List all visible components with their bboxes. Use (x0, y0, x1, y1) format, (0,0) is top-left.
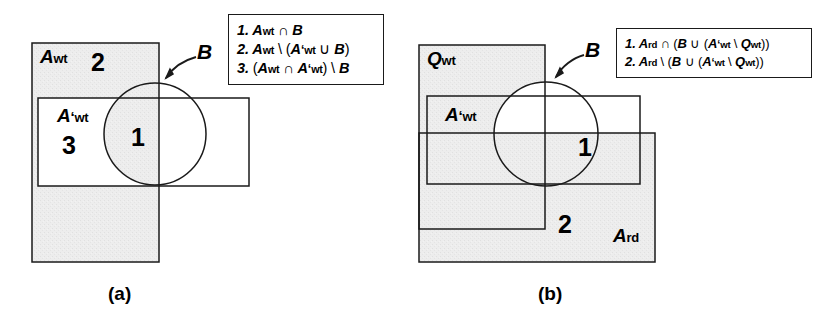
legend-token-op: ∩ (279, 60, 297, 76)
legend-token-sub: wt (311, 63, 322, 75)
label-a-rd-sub: rd (627, 230, 639, 245)
legend-token-var: Q (741, 36, 751, 51)
legend-token-var: B (334, 41, 344, 57)
label-circle-b-b: B (585, 39, 600, 60)
figure-container: Awt 2 A‘wt 3 1 B (a) 1. Awt ∩ B 2. Awt \… (0, 0, 831, 322)
legend-token-op: \ ( (657, 54, 672, 69)
legend-token-var: A (702, 54, 711, 69)
legend-token-var: A (708, 36, 717, 51)
region-label-a-3: 3 (62, 133, 76, 158)
legend-item-index: 2. (625, 54, 639, 69)
legend-item-index: 1. (625, 36, 639, 51)
legend-box-panel-a: 1. Awt ∩ B 2. Awt \ (A‘wt ∪ B) 3. (Awt ∩… (228, 14, 384, 85)
legend-token-op: \ (730, 36, 741, 51)
label-a-prime-wt-sub: wt (75, 110, 89, 125)
label-a-wt-sub: wt (54, 51, 68, 66)
legend-item-index: 1. (237, 22, 252, 38)
legend-token-sub: wt (745, 57, 755, 68)
label-a-wt: Awt (40, 47, 67, 66)
legend-token-var: B (672, 54, 681, 69)
legend-token-op: ∪ ( (687, 36, 708, 51)
region-label-b-2: 2 (558, 212, 572, 237)
legend-token-var: A (639, 36, 648, 51)
legend-item-index: 3. (237, 60, 253, 76)
label-q-wt-sub: wt (442, 53, 456, 68)
legend-token-sub: wt (720, 39, 730, 50)
legend-token-sub: wt (263, 25, 274, 37)
caption-panel-a: (a) (108, 284, 131, 303)
legend-token-sub: rd (648, 39, 657, 50)
legend-line-a-3: 3. (Awt ∩ A‘wt) \ B (237, 59, 374, 78)
label-b-a-prime-wt: A‘wt (445, 105, 476, 124)
legend-box-panel-b: 1. Ard ∩ (B ∪ (A‘wt \ Qwt)) 2. Ard \ (B … (616, 28, 812, 78)
legend-line-a-2: 2. Awt \ (A‘wt ∪ B) (237, 40, 374, 59)
legend-line-b-1: 1. Ard ∩ (B ∪ (A‘wt \ Qwt)) (625, 35, 802, 53)
legend-token-var: A (252, 41, 262, 57)
label-a-prime-wt: A‘wt (57, 106, 88, 125)
legend-token-sub: wt (263, 44, 274, 56)
legend-item-index: 2. (237, 41, 252, 57)
region-label-a-2: 2 (91, 50, 105, 75)
region-label-a-1: 1 (131, 125, 145, 150)
legend-token-var: A (252, 22, 262, 38)
legend-token-var: B (292, 22, 302, 38)
label-b-a-prime-wt-base: A (445, 104, 459, 125)
legend-token-op: )) (755, 54, 763, 69)
legend-token-var: B (339, 60, 349, 76)
legend-token-op: \ (725, 54, 736, 69)
legend-token-op: )) (761, 36, 769, 51)
legend-line-b-2: 2. Ard \ (B ∪ (A‘wt \ Qwt)) (625, 53, 802, 71)
legend-token-sub: wt (751, 39, 761, 50)
legend-token-op: ∩ (274, 22, 292, 38)
legend-token-var: A (639, 54, 648, 69)
legend-token-sub: wt (268, 63, 279, 75)
legend-token-op: ) \ (322, 60, 339, 76)
legend-token-var: A (291, 41, 301, 57)
caption-panel-b: (b) (538, 284, 562, 303)
legend-token-var: Q (735, 54, 745, 69)
label-a-rd-base: A (613, 225, 627, 246)
legend-token-op: ∪ (316, 41, 335, 57)
label-b-a-prime-wt-sub: wt (463, 109, 477, 124)
region-label-b-1: 1 (578, 135, 592, 160)
legend-token-op: ∪ ( (681, 54, 702, 69)
label-q-wt-base: Q (427, 48, 442, 69)
legend-token-sub: rd (648, 57, 657, 68)
legend-token-op: \ ( (274, 41, 291, 57)
label-a-prime-wt-base: A (57, 105, 71, 126)
legend-token-sub: wt (304, 44, 315, 56)
label-q-wt: Qwt (427, 49, 455, 68)
legend-token-sub: wt (714, 57, 724, 68)
legend-token-var: A (258, 60, 268, 76)
legend-line-a-1: 1. Awt ∩ B (237, 21, 374, 40)
legend-token-op: ) (345, 41, 350, 57)
label-circle-b-a: B (197, 41, 212, 62)
label-a-rd: Ard (613, 226, 639, 245)
legend-token-var: B (677, 36, 686, 51)
legend-token-op: ∩ ( (657, 36, 678, 51)
legend-token-var: A (297, 60, 307, 76)
label-a-wt-base: A (40, 46, 54, 67)
